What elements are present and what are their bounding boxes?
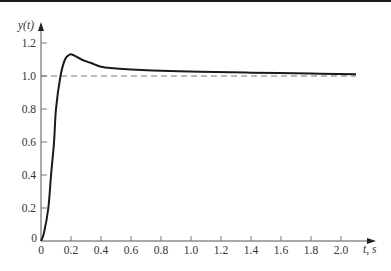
x-tick-label: 1.2 xyxy=(214,244,229,256)
x-tick-label: 0.4 xyxy=(94,244,109,256)
x-tick-label: 0.6 xyxy=(124,244,139,256)
x-ticks: 00.20.40.60.81.01.21.41.61.82.0 xyxy=(38,236,348,256)
x-tick-label: 1.6 xyxy=(274,244,289,256)
x-tick-label: 1.4 xyxy=(244,244,259,256)
y-tick-label: 0.4 xyxy=(22,169,37,181)
y-tick-label: 1.0 xyxy=(22,70,37,82)
axes xyxy=(38,22,376,244)
y-tick-label: 0.6 xyxy=(22,136,37,148)
x-tick-label: 1.8 xyxy=(304,244,319,256)
x-tick-label: 0.2 xyxy=(64,244,79,256)
x-tick-label: 2.0 xyxy=(334,244,349,256)
y-tick-label: 0 xyxy=(31,232,37,244)
y-tick-label: 0.8 xyxy=(22,103,37,115)
x-tick-label: 0.8 xyxy=(154,244,169,256)
x-tick-label: 1.0 xyxy=(184,244,199,256)
y-tick-label: 0.2 xyxy=(22,202,37,214)
x-tick-label: 0 xyxy=(38,244,44,256)
y-axis-arrow-icon xyxy=(38,22,44,31)
y-axis-label: y(t) xyxy=(17,19,34,32)
y-tick-label: 1.2 xyxy=(22,37,37,49)
response-curve xyxy=(41,54,356,241)
step-response-chart: 00.20.40.60.81.01.21.41.61.82.0 00.20.40… xyxy=(0,0,391,271)
y-ticks: 00.20.40.60.81.01.2 xyxy=(22,37,47,244)
y-t-curve xyxy=(41,54,356,241)
x-axis-label: t, s xyxy=(363,243,377,256)
